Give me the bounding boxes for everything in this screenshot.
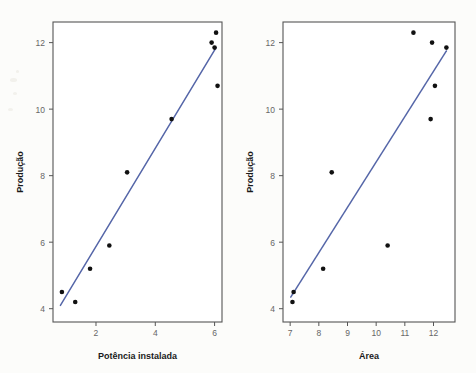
data-point (291, 290, 296, 295)
x-axis-tick-label: 6 (212, 328, 217, 338)
data-point (169, 117, 174, 122)
scatter-plot-area: 4681012789101112ÁreaProdução (238, 0, 476, 373)
data-point (60, 290, 65, 295)
x-axis-tick-label: 9 (345, 328, 350, 338)
x-axis-tick-label: 4 (153, 328, 158, 338)
data-point (428, 117, 433, 122)
x-axis-tick-label: 12 (429, 328, 439, 338)
data-point (329, 170, 334, 175)
x-axis-tick-label: 2 (94, 328, 99, 338)
y-axis-tick-label: 4 (40, 304, 45, 314)
y-axis-tick-label: 8 (40, 171, 45, 181)
data-point (385, 243, 390, 248)
x-axis-tick-label: 8 (316, 328, 321, 338)
x-axis-tick-label: 7 (288, 328, 293, 338)
y-axis-title: Produção (245, 151, 255, 193)
data-point (321, 266, 326, 271)
x-axis-tick-label: 10 (371, 328, 381, 338)
data-point (107, 243, 112, 248)
panel-area: 4681012789101112ÁreaProdução (238, 0, 476, 373)
data-point (444, 45, 449, 50)
data-point (215, 84, 220, 89)
y-axis-tick-label: 6 (270, 238, 275, 248)
y-axis-tick-label: 6 (40, 238, 45, 248)
data-point (125, 170, 130, 175)
figure-container: 4681012246Potência instaladaProdução 468… (0, 0, 476, 373)
panel-potencia-instalada: 4681012246Potência instaladaProdução (0, 0, 238, 373)
data-point (212, 45, 217, 50)
y-axis-tick-label: 12 (266, 38, 276, 48)
x-axis-tick-label: 11 (400, 328, 409, 338)
data-point (411, 30, 416, 35)
y-axis-tick-label: 4 (270, 304, 275, 314)
y-axis-tick-label: 10 (266, 105, 276, 115)
x-axis-title: Potência instalada (98, 351, 178, 361)
y-axis-tick-label: 10 (36, 105, 46, 115)
y-axis-tick-label: 8 (270, 171, 275, 181)
y-axis-tick-label: 12 (36, 38, 46, 48)
data-point (73, 300, 78, 305)
scatter-plot-potencia-instalada: 4681012246Potência instaladaProdução (0, 0, 238, 373)
data-point (433, 84, 438, 89)
data-point (88, 266, 93, 271)
y-axis-title: Produção (15, 151, 25, 193)
data-point (430, 40, 435, 45)
x-axis-title: Área (359, 351, 380, 361)
data-point (214, 30, 219, 35)
data-point (209, 40, 214, 45)
data-point (290, 300, 295, 305)
